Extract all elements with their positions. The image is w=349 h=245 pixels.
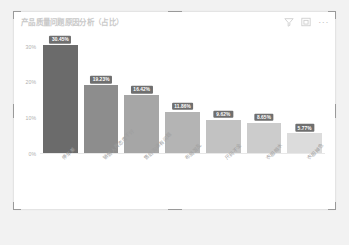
focus-mode-icon[interactable] [301, 17, 311, 27]
chart-title: 产品质量问题原因分析（占比） [21, 16, 123, 27]
card-corner-bottom-right [328, 202, 336, 210]
bar-data-label: 11.86% [172, 102, 194, 109]
x-axis-label-slot: 衣服掉色 [287, 154, 322, 209]
bar-data-label: 9.62% [214, 110, 233, 117]
bar-column[interactable]: 9.62% [206, 36, 241, 154]
x-axis-label-slot: 销售人员态度不好 [84, 154, 119, 209]
y-axis-tick: 0% [29, 151, 37, 157]
card-corner-bottom-left [13, 202, 21, 210]
card-resize-handle-left[interactable] [13, 104, 14, 118]
visual-card: 产品质量问题原因分析（占比） ··· 0%10%20%30% 30.45%19.… [14, 12, 335, 209]
x-axis: 停车差销售人员态度不好售后沟通有问题布局混乱尺码不全衣服缩水衣服掉色 [40, 154, 325, 209]
plot-area: 0%10%20%30% 30.45%19.23%16.42%11.86%9.62… [40, 36, 325, 154]
y-axis-tick: 20% [26, 79, 36, 85]
y-axis-tick: 30% [26, 44, 36, 50]
card-toolbar: ··· [284, 17, 329, 27]
x-axis-label-slot: 尺码不全 [206, 154, 241, 209]
bar-data-label: 5.77% [295, 124, 314, 131]
bar[interactable]: 30.45% [43, 45, 78, 154]
bar-series: 30.45%19.23%16.42%11.86%9.62%8.65%5.77% [40, 36, 325, 154]
bar-data-label: 8.65% [254, 114, 273, 121]
filter-icon[interactable] [284, 17, 294, 27]
more-options-icon[interactable]: ··· [318, 19, 329, 25]
x-axis-label-slot: 停车差 [43, 154, 78, 209]
bar-data-label: 30.45% [49, 36, 71, 43]
x-axis-label-slot: 布局混乱 [165, 154, 200, 209]
bar-column[interactable]: 30.45% [43, 36, 78, 154]
bar-column[interactable]: 8.65% [247, 36, 282, 154]
y-axis: 0%10%20%30% [16, 36, 38, 154]
bar-data-label: 19.23% [90, 76, 112, 83]
bar-column[interactable]: 5.77% [287, 36, 322, 154]
card-resize-handle-right[interactable] [335, 104, 336, 118]
bar-data-label: 16.42% [131, 86, 153, 93]
card-header: 产品质量问题原因分析（占比） ··· [14, 12, 335, 33]
x-axis-label-slot: 售后沟通有问题 [124, 154, 159, 209]
x-axis-label-slot: 衣服缩水 [247, 154, 282, 209]
bar-column[interactable]: 19.23% [84, 36, 119, 154]
y-axis-tick: 10% [26, 115, 36, 121]
x-axis-labels: 停车差销售人员态度不好售后沟通有问题布局混乱尺码不全衣服缩水衣服掉色 [40, 154, 325, 209]
